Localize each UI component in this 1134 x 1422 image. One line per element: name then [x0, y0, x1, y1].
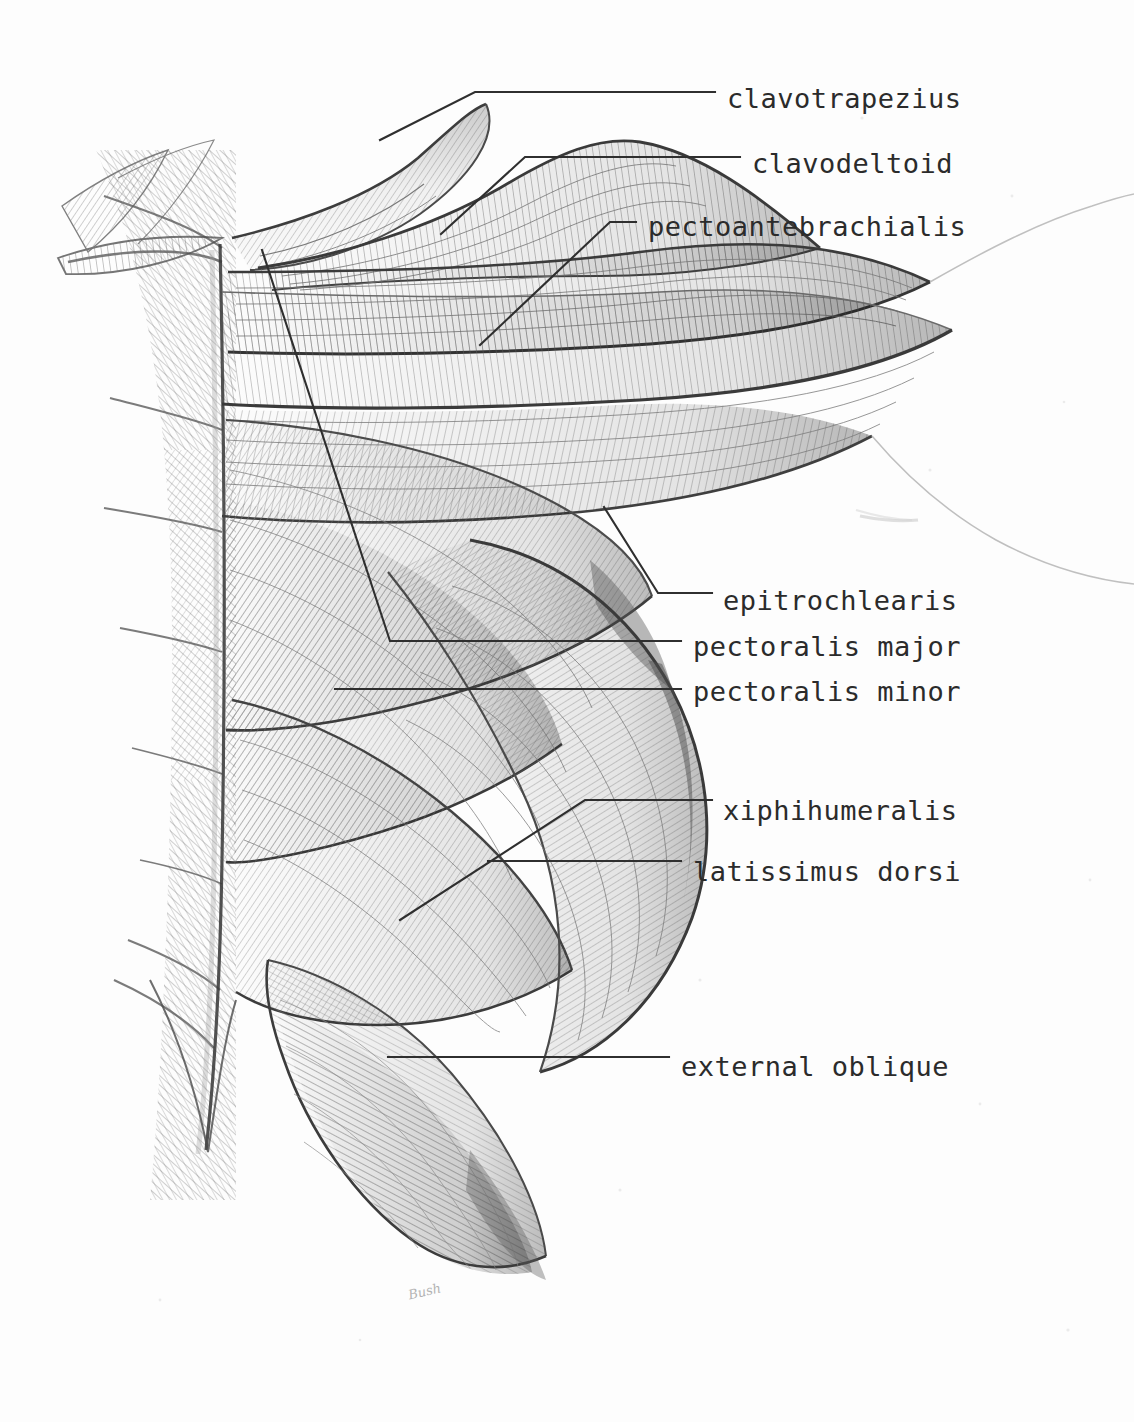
label-external-oblique: external oblique [681, 1053, 949, 1080]
label-clavodeltoid: clavodeltoid [752, 150, 953, 177]
label-pectoralis-major: pectoralis major [693, 633, 961, 660]
label-latissimus-dorsi: latissimus dorsi [693, 858, 961, 885]
label-pectoralis-minor: pectoralis minor [693, 678, 961, 705]
label-xiphihumeralis: xiphihumeralis [723, 797, 958, 824]
label-clavotrapezius: clavotrapezius [727, 85, 962, 112]
label-pectoantebrachialis: pectoantebrachialis [648, 213, 966, 240]
label-epitrochlearis: epitrochlearis [723, 587, 958, 614]
